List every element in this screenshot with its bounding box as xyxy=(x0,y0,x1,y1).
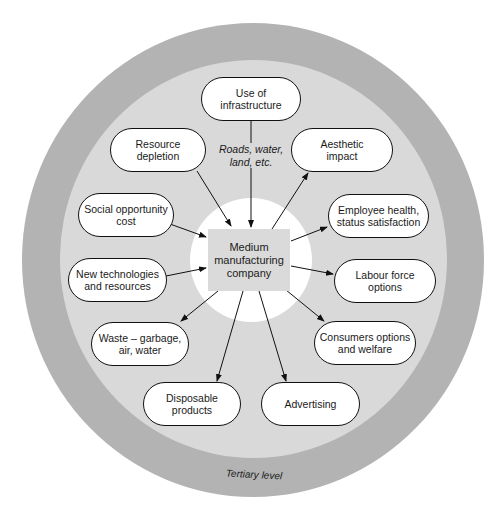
arrow-company-to-waste xyxy=(181,291,218,321)
node-waste: Waste – garbage, air, water xyxy=(91,322,189,366)
node-advertising: Advertising xyxy=(261,382,360,426)
node-employee-health: Employee health, status satisfaction xyxy=(328,194,429,238)
arrow-company-to-disposable xyxy=(217,291,243,381)
node-social-opportunity-cost: Social opportunity cost xyxy=(78,193,174,237)
node-consumers-options: Consumers options and welfare xyxy=(314,321,416,365)
node-aesthetic-impact: Aesthetic impact xyxy=(291,128,393,172)
arrow-company-to-employee-health xyxy=(291,227,327,241)
arrow-social-cost-to-company xyxy=(170,224,206,237)
arrow-company-to-consumers xyxy=(286,290,324,321)
node-labour-force-options: Labour force options xyxy=(334,259,436,303)
center-company-box: Medium manufacturing company xyxy=(208,229,290,291)
node-disposable-products: Disposable products xyxy=(143,382,241,426)
infrastructure-note: Roads, water, land, etc. xyxy=(213,143,289,168)
arrow-company-to-aesthetic xyxy=(272,173,308,229)
impact-diagram: Roads, water, land, etc. Medium manufact… xyxy=(0,0,504,514)
node-resource-depletion: Resource depletion xyxy=(110,128,206,172)
arrow-new-tech-to-company xyxy=(166,268,206,276)
arrow-resource-depletion-to-company xyxy=(197,171,231,226)
arrow-company-to-labour-force xyxy=(291,266,333,274)
arrow-company-to-advertising xyxy=(259,291,286,381)
node-use-of-infrastructure: Use of infrastructure xyxy=(201,77,301,121)
node-new-technologies: New technologies and resources xyxy=(68,258,167,302)
